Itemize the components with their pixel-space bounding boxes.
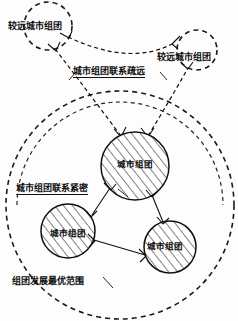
leader-sparse-right <box>160 72 167 80</box>
core-cluster-shapes <box>41 132 196 273</box>
core-cluster-top-label: 城市组团 <box>117 157 153 169</box>
link-coreleft-coreright <box>94 240 145 255</box>
sparse-links-annotation: 城市组团联系疏远 <box>73 64 145 78</box>
core-cluster-right-label: 城市组团 <box>147 239 183 251</box>
remote-cluster-left-label: 较远城市组团 <box>8 19 62 32</box>
core-cluster-left-label: 城市组团 <box>50 226 86 238</box>
tight-links-annotation: 城市组团联系紧密 <box>16 181 88 195</box>
arrowhead-remote-left-b <box>48 42 60 51</box>
link-coretop-coreleft <box>92 188 110 215</box>
optimal-range-annotation: 组团发展最优范围 <box>12 274 84 287</box>
link-core-to-remote-left <box>56 50 121 136</box>
arrowhead-remote-right-a <box>172 36 180 49</box>
remote-cluster-right-label: 较远城市组团 <box>157 50 211 63</box>
urban-cluster-diagram: 较远城市组团 较远城市组团 城市组团联系疏远 城市组团联系紧密 组团发展最优范围… <box>0 0 238 321</box>
sparse-link-group <box>48 31 193 137</box>
leader-range <box>103 277 113 288</box>
